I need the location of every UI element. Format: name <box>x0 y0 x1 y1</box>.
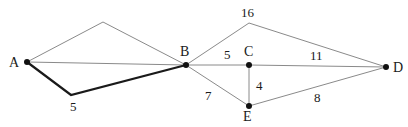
node-a-label: A <box>9 55 20 70</box>
edge-c-d <box>249 65 386 67</box>
weighted-graph-diagram: 516511478ABCDE <box>0 0 408 127</box>
edge-weight-label: 5 <box>224 47 231 62</box>
node-b-dot <box>183 62 189 68</box>
edge-b-d-upper <box>186 23 386 67</box>
edge-a-b-direct <box>27 62 186 65</box>
edge-b-e <box>186 65 249 106</box>
edge-weight-label: 7 <box>205 88 212 103</box>
edge-a-b-upper <box>27 22 186 65</box>
edge-a-b-lower <box>27 62 186 95</box>
node-e-label: E <box>243 109 252 124</box>
node-d-dot <box>383 64 389 70</box>
edge-weight-label: 5 <box>70 99 77 114</box>
edge-weight-label: 4 <box>256 78 263 93</box>
node-c-label: C <box>244 44 253 59</box>
node-d-label: D <box>393 60 403 75</box>
edge-weight-label: 8 <box>314 90 321 105</box>
node-c-dot <box>246 62 252 68</box>
node-b-label: B <box>180 44 189 59</box>
edge-weight-label: 16 <box>241 5 255 20</box>
edge-weight-label: 11 <box>310 48 323 63</box>
node-a-dot <box>24 59 30 65</box>
